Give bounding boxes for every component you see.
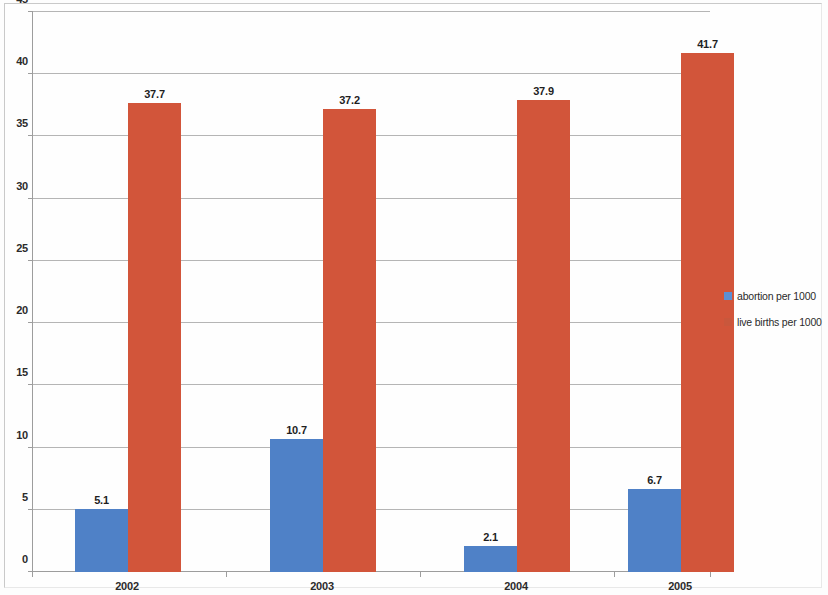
legend-label: live births per 1000 <box>737 316 822 328</box>
bar-chart: 051015202530354045 5.137.710.737.22.137.… <box>0 0 828 595</box>
bar-group-2003: 10.737.2 <box>270 12 376 572</box>
y-axis-label: 40 <box>2 55 28 67</box>
y-axis-label: 20 <box>2 304 28 316</box>
chart-legend: abortion per 1000live births per 1000 <box>724 286 824 338</box>
y-tick-mark <box>28 198 33 199</box>
bar-2005-series0[interactable]: 6.7 <box>628 489 681 572</box>
bar-group-2005: 6.741.7 <box>628 12 734 572</box>
y-tick-mark <box>28 509 33 510</box>
bar-2003-series1[interactable]: 37.2 <box>323 109 376 572</box>
x-tick-mark <box>420 572 421 577</box>
plot-area: 5.137.710.737.22.137.96.741.7 <box>32 12 710 572</box>
bar-value-label: 37.7 <box>144 88 165 100</box>
x-axis-label-2004: 2004 <box>504 580 528 592</box>
bar-2004-series0[interactable]: 2.1 <box>464 546 517 572</box>
y-tick-mark <box>28 135 33 136</box>
x-tick-mark <box>226 572 227 577</box>
y-axis-label: 30 <box>2 180 28 192</box>
y-axis-label: 5 <box>2 491 28 503</box>
legend-swatch-icon <box>724 292 732 300</box>
y-axis-label: 35 <box>2 117 28 129</box>
y-axis-label: 45 <box>2 0 28 5</box>
legend-item-1[interactable]: live births per 1000 <box>724 312 824 332</box>
y-axis-label: 15 <box>2 366 28 378</box>
bar-value-label: 37.2 <box>339 94 360 106</box>
y-tick-mark <box>28 73 33 74</box>
y-tick-mark <box>28 384 33 385</box>
bar-value-label: 5.1 <box>94 494 109 506</box>
bar-group-2004: 2.137.9 <box>464 12 570 572</box>
bar-2002-series1[interactable]: 37.7 <box>128 103 181 572</box>
x-tick-mark <box>710 572 711 577</box>
y-tick-mark <box>28 322 33 323</box>
x-axis-label-2002: 2002 <box>115 580 139 592</box>
bar-value-label: 37.9 <box>533 85 554 97</box>
y-tick-mark <box>28 260 33 261</box>
bar-2004-series1[interactable]: 37.9 <box>517 100 570 572</box>
legend-swatch-icon <box>724 318 732 326</box>
x-axis: 2002200320042005 <box>32 572 710 595</box>
x-axis-label-2003: 2003 <box>310 580 334 592</box>
y-axis: 051015202530354045 <box>0 12 28 572</box>
legend-item-0[interactable]: abortion per 1000 <box>724 286 824 306</box>
y-axis-label: 25 <box>2 242 28 254</box>
y-axis-label: 10 <box>2 429 28 441</box>
bar-value-label: 2.1 <box>483 531 498 543</box>
bar-value-label: 41.7 <box>697 38 718 50</box>
bar-value-label: 6.7 <box>647 474 662 486</box>
bar-value-label: 10.7 <box>286 424 307 436</box>
y-axis-label: 0 <box>2 553 28 565</box>
bar-group-2002: 5.137.7 <box>75 12 181 572</box>
bar-2002-series0[interactable]: 5.1 <box>75 509 128 572</box>
y-tick-mark <box>28 11 33 12</box>
y-tick-mark <box>28 447 33 448</box>
x-tick-mark <box>32 572 33 577</box>
bar-2003-series0[interactable]: 10.7 <box>270 439 323 572</box>
x-tick-mark <box>614 572 615 577</box>
legend-label: abortion per 1000 <box>737 290 816 302</box>
x-axis-label-2005: 2005 <box>668 580 692 592</box>
